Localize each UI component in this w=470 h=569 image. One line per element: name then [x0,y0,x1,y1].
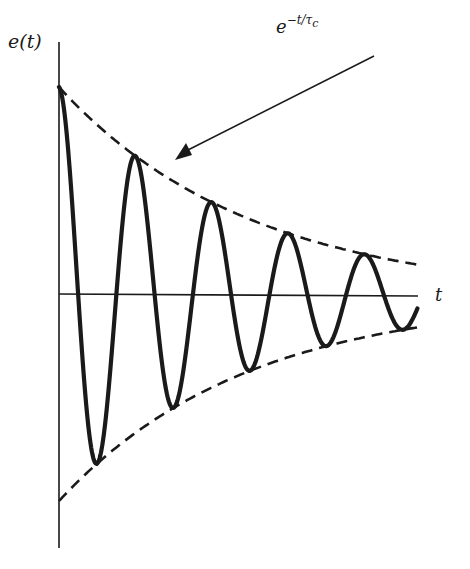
envelope-label-base: e [276,16,287,37]
envelope-label-exponent: −t/τc [287,13,319,27]
t-axis [59,294,418,296]
t-axis-label: t [435,284,442,305]
upper-envelope [59,87,417,265]
damped-oscillation-diagram [0,0,470,569]
envelope-label-subscript: c [312,17,318,30]
envelope-label: e−t/τc [276,15,318,37]
envelope-arrow [175,56,374,160]
y-axis-label: e(t) [8,30,42,52]
damped-signal-curve [59,87,417,464]
